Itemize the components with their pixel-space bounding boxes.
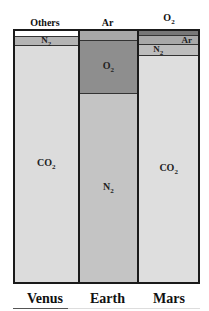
bottom-rule <box>13 308 68 309</box>
top-label-mars-o2: O2 <box>138 12 200 26</box>
column-earth: O2N2 <box>78 31 138 282</box>
x-label-earth: Earth <box>77 291 138 307</box>
column-mars: ArN2CO2 <box>137 31 198 282</box>
segment-label: N2 <box>103 181 114 195</box>
top-label-earth-ar: Ar <box>77 17 138 28</box>
segment-earth-n2: N2 <box>80 94 138 282</box>
x-label-mars: Mars <box>138 291 200 307</box>
segment-mars-co2: CO2 <box>139 56 198 282</box>
segment-mars-n2: N2 <box>139 45 198 56</box>
top-label-venus-others: Others <box>13 17 77 28</box>
stacked-column-chart: N2CO2O2N2ArN2CO2 <box>13 29 200 284</box>
segment-mars-ar: Ar <box>139 36 198 45</box>
segment-label: Ar <box>181 35 192 45</box>
column-venus: N2CO2 <box>15 31 78 282</box>
segment-label: O2 <box>103 60 114 74</box>
segment-venus-n2: N2 <box>15 37 78 46</box>
segment-earth-o2: O2 <box>80 41 138 94</box>
segment-label: CO2 <box>37 157 56 171</box>
top-label-mars-text: O2 <box>163 12 174 23</box>
segment-label: N2 <box>153 44 163 57</box>
segment-label: CO2 <box>159 162 178 176</box>
x-label-venus: Venus <box>13 291 77 307</box>
segment-earth-ar <box>80 31 138 41</box>
segment-venus-co2: CO2 <box>15 46 78 282</box>
bottom-rule-light <box>68 308 200 309</box>
